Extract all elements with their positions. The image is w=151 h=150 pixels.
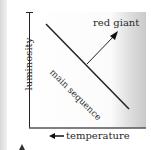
x-axis-label: temperature <box>66 130 130 141</box>
red-giant-label: red giant <box>93 17 139 28</box>
temperature-arrowhead-icon <box>49 133 55 139</box>
triangle-marker-icon <box>19 144 25 150</box>
y-axis-label: luminosity <box>23 41 34 91</box>
main-sequence-line <box>46 24 129 109</box>
red-giant-arrow-shaft <box>87 36 114 64</box>
